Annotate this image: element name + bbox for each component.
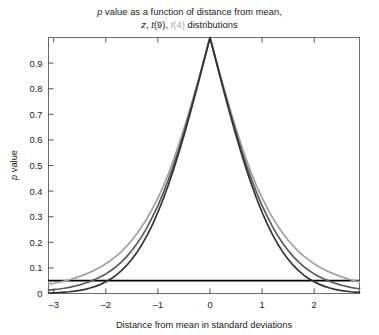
x-tick-label: 1: [259, 300, 264, 310]
x-tick-label: –2: [101, 300, 111, 310]
y-tick-label: 0.8: [30, 84, 43, 94]
y-axis-title: p value: [9, 150, 19, 181]
y-tick-label: 0.4: [30, 187, 43, 197]
y-tick-label: 0.1: [30, 263, 43, 273]
plot-frame: [49, 38, 360, 294]
y-tick-label: 0: [37, 289, 42, 299]
y-tick-label: 0.3: [30, 212, 43, 222]
x-tick-label: 2: [312, 300, 317, 310]
plot-area: 00.10.20.30.40.50.60.70.80.9 –3–2–1012 D…: [0, 0, 379, 335]
y-tick-label: 0.2: [30, 238, 43, 248]
y-tick-label: 0.7: [30, 110, 43, 120]
x-tick-label: 0: [207, 300, 212, 310]
x-axis-title: Distance from mean in standard deviation…: [116, 320, 293, 330]
y-tick-label: 0.5: [30, 161, 43, 171]
y-tick-label: 0.9: [30, 59, 43, 69]
x-tick-label: –3: [49, 300, 59, 310]
x-tick-label: –1: [153, 300, 163, 310]
y-axis-title-group: p value: [9, 150, 19, 181]
figure-container: p value as a function of distance from m…: [0, 0, 379, 335]
y-axis-title-rest: value: [9, 150, 19, 175]
y-tick-label: 0.6: [30, 135, 43, 145]
